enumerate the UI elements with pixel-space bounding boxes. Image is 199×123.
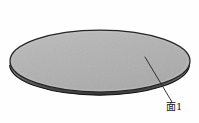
figure-container: 面1	[0, 0, 199, 123]
disc-drawing-canvas	[0, 0, 199, 123]
disc-top-face	[10, 30, 190, 92]
